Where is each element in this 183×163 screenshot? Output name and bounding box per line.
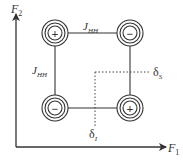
peak-bottom-left: − — [42, 95, 68, 121]
delta-s-label: δS — [153, 65, 163, 81]
minus-icon: − — [127, 27, 134, 41]
y-axis-label: F2 — [10, 2, 22, 18]
y-axis: F2 — [10, 2, 22, 147]
coupling-square — [55, 33, 130, 108]
peak-top-right: − — [117, 20, 143, 46]
delta-i-label: δI — [89, 127, 98, 143]
minus-icon: − — [52, 102, 59, 116]
x-axis-label: F1 — [167, 141, 179, 157]
coupling-label-left: JHH — [32, 64, 48, 79]
peak-top-left: + — [42, 20, 68, 46]
cosy-diagram: F2 F1 JHH JHH δS δI + − − — [0, 0, 183, 163]
plus-icon: + — [52, 27, 59, 41]
x-axis: F1 — [16, 141, 179, 157]
peak-bottom-right: + — [117, 95, 143, 121]
plus-icon: + — [127, 102, 134, 116]
